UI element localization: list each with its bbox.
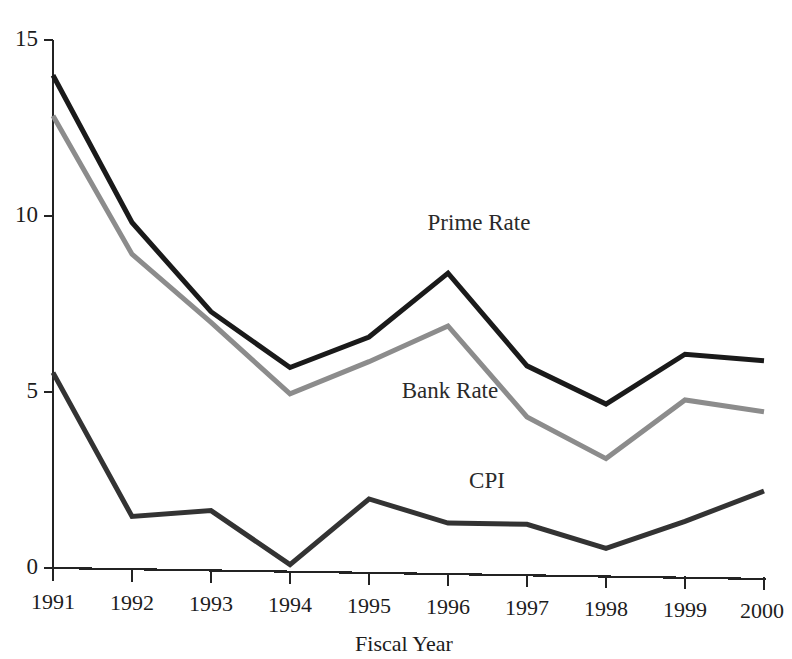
y-tick-label-10: 10 [15,202,38,227]
x-axis-tick-labels: 1991 1992 1993 1994 1995 1996 1997 1998 … [31,589,784,623]
series-label-bank-rate: Bank Rate [402,378,498,403]
series-label-cpi: CPI [469,468,505,493]
x-tick-label-1993: 1993 [189,591,233,616]
x-tick-label-1999: 1999 [663,597,707,622]
x-tick-label-1996: 1996 [426,594,470,619]
series-line-bank-rate [53,116,764,459]
x-tick-label-1991: 1991 [31,589,75,614]
y-axis-tick-labels: 15 10 5 0 [15,26,38,579]
y-tick-label-0: 0 [27,554,39,579]
series-label-prime-rate: Prime Rate [428,210,531,235]
x-axis-line [53,568,766,579]
y-tick-label-15: 15 [15,26,38,51]
x-tick-label-1992: 1992 [110,590,154,615]
y-tick-label-5: 5 [27,378,39,403]
chart-plot-area: 15 10 5 0 1991 1992 1993 1994 1995 1996 [0,0,792,659]
x-tick-label-1998: 1998 [584,596,628,621]
series-line-prime-rate [53,75,764,404]
x-tick-label-1995: 1995 [347,593,391,618]
y-axis-ticks [44,40,53,568]
x-tick-label-2000: 2000 [740,598,784,623]
x-axis-ticks [53,568,764,590]
x-tick-label-1994: 1994 [268,592,312,617]
x-axis-title: Fiscal Year [355,631,453,656]
line-chart: 15 10 5 0 1991 1992 1993 1994 1995 1996 [0,0,792,659]
x-tick-label-1997: 1997 [505,595,549,620]
